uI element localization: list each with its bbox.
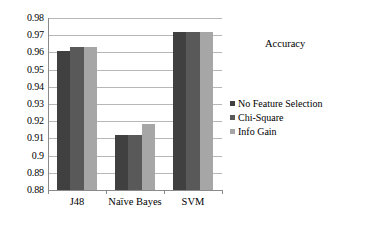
legend-item-label: Info Gain: [238, 126, 277, 137]
y-axis-tick-label: 0.92: [0, 116, 44, 126]
y-axis-tick-label: 0.96: [0, 47, 44, 57]
y-axis-tick-label: 0.89: [0, 168, 44, 178]
y-axis-line: [48, 18, 49, 190]
y-axis-tick-label: 0.94: [0, 82, 44, 92]
bar[interactable]: [115, 135, 129, 190]
y-axis-tick-label: 0.93: [0, 99, 44, 109]
bar-group: [57, 18, 98, 190]
legend-item[interactable]: No Feature Selection: [230, 96, 322, 110]
y-axis-tick-label: 0.91: [0, 133, 44, 143]
x-axis-tick: [164, 190, 165, 194]
legend-swatch-icon: [230, 101, 235, 106]
bar[interactable]: [70, 47, 84, 190]
plot-area: [48, 18, 222, 190]
y-axis-tick-label: 0.98: [0, 13, 44, 23]
bar[interactable]: [142, 124, 156, 190]
axis-baseline: [48, 190, 222, 191]
bar-group: [115, 18, 156, 190]
x-axis-tick: [106, 190, 107, 194]
bar[interactable]: [128, 135, 142, 190]
y-axis-tick-label: 0.97: [0, 30, 44, 40]
bar[interactable]: [186, 32, 200, 190]
legend-title: Accuracy: [265, 38, 305, 50]
legend-swatch-icon: [230, 129, 235, 134]
accuracy-bar-chart: 0.980.970.960.950.940.930.920.910.90.890…: [0, 0, 369, 227]
legend-swatch-icon: [230, 115, 235, 120]
y-axis-tick-label: 0.95: [0, 65, 44, 75]
legend: No Feature SelectionChi-SquareInfo Gain: [230, 96, 322, 138]
bar[interactable]: [173, 32, 187, 190]
legend-item[interactable]: Info Gain: [230, 124, 322, 138]
legend-item-label: No Feature Selection: [238, 98, 322, 109]
y-axis-tick-label: 0.88: [0, 185, 44, 195]
bar-group: [173, 18, 214, 190]
bar[interactable]: [84, 47, 98, 190]
x-axis-category-label: J48: [48, 196, 106, 208]
x-axis-category-label: SVM: [164, 196, 222, 208]
legend-item[interactable]: Chi-Square: [230, 110, 322, 124]
x-axis-category-label: Naïve Bayes: [106, 196, 164, 208]
bar[interactable]: [200, 32, 214, 190]
x-axis-tick: [48, 190, 49, 194]
x-axis-tick: [222, 190, 223, 194]
y-axis-tick-label: 0.9: [0, 151, 44, 161]
bar[interactable]: [57, 51, 71, 190]
legend-item-label: Chi-Square: [238, 112, 284, 123]
